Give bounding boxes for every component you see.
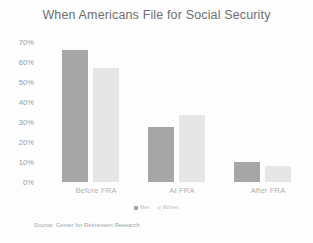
bar-group-at-fra (148, 40, 216, 182)
y-axis-tick-label: 40% (19, 99, 34, 107)
y-axis-tick-label: 20% (19, 139, 34, 147)
bar-women-at-fra[interactable] (179, 115, 205, 182)
x-axis-tick-label-after-fra: After FRA (226, 186, 310, 195)
bar-women-after-fra[interactable] (265, 166, 291, 182)
y-axis-tick-label: 30% (19, 119, 34, 127)
plot-area (40, 40, 302, 182)
legend-label-women: Women (163, 205, 179, 210)
x-axis-tick-label-at-fra: At FRA (140, 186, 224, 195)
y-axis: 70% 60% 50% 40% 30% 20% 10% 0% (0, 40, 36, 182)
bar-group-after-fra (234, 40, 302, 182)
legend-item-men[interactable]: Men (134, 205, 149, 210)
legend-item-women[interactable]: Women (157, 205, 179, 210)
bar-men-before-fra[interactable] (62, 50, 88, 182)
y-axis-tick-label: 70% (19, 39, 34, 47)
y-axis-tick-label: 0% (23, 179, 34, 187)
legend-swatch-icon (157, 206, 161, 210)
chart-container: When Americans File for Social Security … (0, 0, 313, 243)
legend-swatch-icon (134, 206, 138, 210)
source-note: Source: Center for Retirement Research (34, 222, 140, 228)
bar-women-before-fra[interactable] (93, 68, 119, 182)
y-axis-tick-label: 50% (19, 79, 34, 87)
bar-men-after-fra[interactable] (234, 162, 260, 182)
bar-group-before-fra (62, 40, 130, 182)
bar-men-at-fra[interactable] (148, 127, 174, 182)
x-axis: Before FRA At FRA After FRA (40, 186, 302, 200)
x-axis-tick-label-before-fra: Before FRA (54, 186, 138, 195)
y-axis-tick-label: 10% (19, 159, 34, 167)
legend-label-men: Men (140, 205, 149, 210)
chart-legend: Men Women (0, 205, 313, 210)
chart-title: When Americans File for Social Security (0, 8, 313, 22)
y-axis-tick-label: 60% (19, 59, 34, 67)
